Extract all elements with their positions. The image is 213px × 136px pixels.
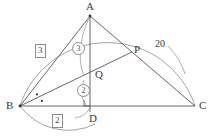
ratio-box-bottom-2: 2 <box>52 114 63 128</box>
vertex-dot-b <box>19 105 22 108</box>
leader-arc-20 <box>168 46 185 74</box>
vertex-label-p: P <box>134 44 140 55</box>
vertex-label-b: B <box>6 100 13 111</box>
vertex-dot-a <box>89 15 92 18</box>
cevian-bp <box>20 52 132 106</box>
ratio-circle-aq-3: 3 <box>72 42 85 55</box>
ratio-box-left-3: 3 <box>35 44 46 58</box>
angle-mark-dot-1 <box>36 94 38 96</box>
vertex-label-c: C <box>199 100 206 111</box>
geometry-figure: A B C D P Q 20 3 2 3 2 <box>0 0 213 136</box>
circumcircle-arc-upper <box>20 42 195 106</box>
length-label-20: 20 <box>155 39 165 49</box>
diagram-canvas <box>0 0 213 136</box>
vertex-label-a: A <box>86 1 94 12</box>
leader-arc-bottom <box>75 107 90 118</box>
vertex-label-q: Q <box>95 69 103 80</box>
ratio-circle-qd-2: 2 <box>77 84 90 97</box>
angle-mark-dot-2 <box>41 100 43 102</box>
vertex-label-d: D <box>89 113 97 124</box>
